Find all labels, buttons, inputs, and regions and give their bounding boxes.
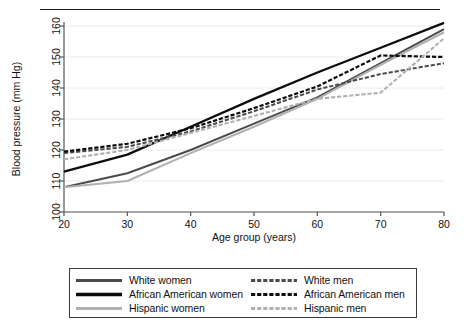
svg-text:70: 70 xyxy=(375,218,387,230)
svg-text:150: 150 xyxy=(50,48,62,66)
figure-container: 10011012013014015016020304050607080Age g… xyxy=(0,0,464,330)
legend-swatch-white-men xyxy=(251,275,297,286)
svg-text:80: 80 xyxy=(438,218,450,230)
legend-item-hispanic-women[interactable]: Hispanic women xyxy=(76,301,251,315)
line-chart: 10011012013014015016020304050607080Age g… xyxy=(0,14,464,258)
legend-swatch-hispanic-men xyxy=(251,303,297,314)
legend-item-african-american-women[interactable]: African American women xyxy=(76,287,251,301)
svg-text:110: 110 xyxy=(50,172,62,189)
legend-label-white-women: White women xyxy=(129,275,192,286)
svg-text:50: 50 xyxy=(248,218,260,230)
svg-text:30: 30 xyxy=(121,218,133,230)
legend-label-african-american-men: African American men xyxy=(304,289,405,300)
svg-text:140: 140 xyxy=(50,79,62,97)
legend-label-hispanic-women: Hispanic women xyxy=(129,303,205,314)
legend-swatch-african-american-women xyxy=(76,289,122,300)
legend-row: Hispanic women Hispanic men xyxy=(76,301,410,315)
svg-text:130: 130 xyxy=(50,110,62,128)
chart-area: 10011012013014015016020304050607080Age g… xyxy=(0,14,464,258)
legend-swatch-hispanic-women xyxy=(76,303,122,314)
series-line-african-american-men xyxy=(64,55,444,151)
chart-legend: White women White men African American w… xyxy=(69,268,417,318)
svg-text:40: 40 xyxy=(185,218,197,230)
top-rule-divider xyxy=(40,9,440,10)
legend-item-white-men[interactable]: White men xyxy=(251,273,410,287)
legend-swatch-african-american-men xyxy=(251,289,297,300)
svg-text:20: 20 xyxy=(58,218,70,230)
legend-swatch-white-women xyxy=(76,275,122,286)
legend-item-african-american-men[interactable]: African American men xyxy=(251,287,410,301)
legend-label-white-men: White men xyxy=(304,275,353,286)
series-line-african-american-women xyxy=(64,23,444,172)
legend-label-african-american-women: African American women xyxy=(129,289,243,300)
svg-text:160: 160 xyxy=(50,17,62,35)
legend-item-hispanic-men[interactable]: Hispanic men xyxy=(251,301,410,315)
legend-label-hispanic-men: Hispanic men xyxy=(304,303,366,314)
svg-text:60: 60 xyxy=(311,218,323,230)
svg-text:Blood pressure (mm Hg): Blood pressure (mm Hg) xyxy=(10,62,22,176)
svg-text:120: 120 xyxy=(50,141,62,159)
legend-row: White women White men xyxy=(76,273,410,287)
legend-row: African American women African American … xyxy=(76,287,410,301)
svg-text:Age group (years): Age group (years) xyxy=(212,231,296,243)
legend-item-white-women[interactable]: White women xyxy=(76,273,251,287)
